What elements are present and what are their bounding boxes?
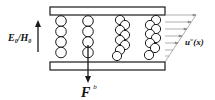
arrow-down-icon [85,76,91,83]
bottom-plate [50,62,165,70]
field-arrow [35,20,41,52]
arrow-up-icon [35,20,41,27]
top-plate [50,7,165,15]
velocity-label: uw(x) [185,37,204,47]
particle-chain-3 [112,15,129,60]
mr-fluid-shear-diagram: E0/H0 Fb uw(x) [0,0,215,100]
field-label: E0/H0 [7,32,31,44]
particle-chain-1 [56,16,67,58]
force-label: Fb [80,83,97,100]
particle-chain-4 [144,15,160,59]
